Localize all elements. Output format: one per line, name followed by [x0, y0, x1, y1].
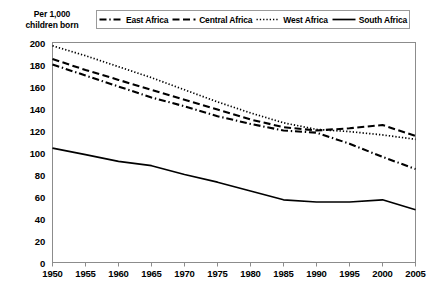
x-axis-tick-labels: 1950195519601965197019751980198519901995… — [0, 0, 436, 292]
line-chart: Per 1,000 children born East AfricaCentr… — [0, 0, 436, 292]
x-tick-label: 2005 — [396, 268, 436, 279]
